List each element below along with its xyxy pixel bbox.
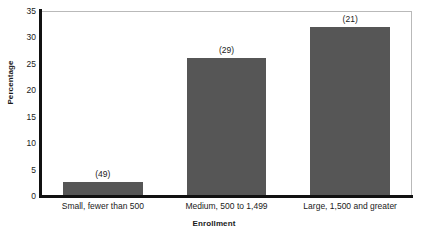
y-axis-tick-label: 35 bbox=[14, 6, 36, 16]
y-axis-tick-label: 10 bbox=[14, 138, 36, 148]
x-axis-line bbox=[39, 195, 413, 198]
x-axis-tick-label: Small, fewer than 500 bbox=[62, 201, 144, 211]
y-axis-tick-label: 25 bbox=[14, 59, 36, 69]
x-axis-tick-label: Large, 1,500 and greater bbox=[303, 201, 397, 211]
x-axis-title: Enrollment bbox=[0, 219, 428, 228]
bar-value-label: (49) bbox=[95, 169, 110, 179]
bar bbox=[310, 27, 390, 196]
bar-value-label: (29) bbox=[219, 45, 234, 55]
bar bbox=[187, 58, 267, 196]
y-axis-tick-label: 20 bbox=[14, 85, 36, 95]
plot-area bbox=[41, 11, 412, 196]
y-axis-tick-labels: 05101520253035 bbox=[14, 0, 36, 239]
y-axis-tick-label: 15 bbox=[14, 112, 36, 122]
bar-value-label: (21) bbox=[343, 14, 358, 24]
x-axis-tick-label: Medium, 500 to 1,499 bbox=[185, 201, 267, 211]
y-axis-tick-label: 30 bbox=[14, 32, 36, 42]
y-axis-tick-label: 0 bbox=[14, 191, 36, 201]
bar bbox=[63, 182, 143, 196]
bar-chart: Percentage 05101520253035 (49)(29)(21) S… bbox=[0, 0, 428, 239]
y-axis-tick-label: 5 bbox=[14, 165, 36, 175]
y-axis-line bbox=[39, 9, 42, 198]
